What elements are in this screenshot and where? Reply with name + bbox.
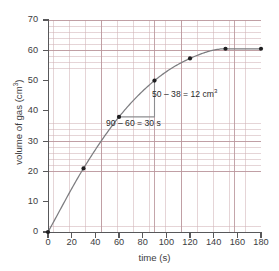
data-point-90s	[152, 78, 156, 82]
data-point-0s	[46, 230, 50, 234]
rise-annotation: 50 – 38 = 12 cm3	[152, 90, 217, 99]
data-point-120s	[188, 56, 192, 60]
data-overlay	[0, 0, 279, 271]
data-point-150s	[223, 47, 227, 51]
data-point-markers	[46, 47, 263, 234]
run-annotation: 90 – 60 = 30 s	[106, 119, 161, 128]
data-point-180s	[259, 47, 263, 51]
rise-annotation-text: 50 – 38 = 12 cm	[152, 89, 214, 99]
data-point-30s	[81, 166, 85, 170]
rise-annotation-superscript: 3	[214, 88, 217, 94]
volume-curve	[48, 49, 260, 232]
gas-volume-line-chart: 010203040506070020406080100120140160180 …	[0, 0, 279, 271]
